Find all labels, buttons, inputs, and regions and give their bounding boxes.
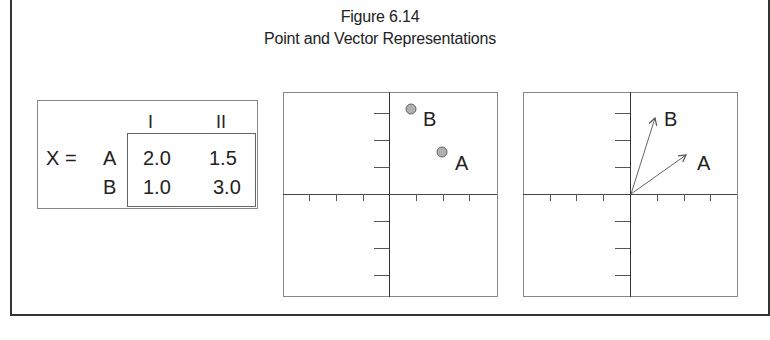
point-chart: B A — [283, 92, 498, 297]
vector-chart: B A — [523, 92, 738, 297]
point-B-label: B — [423, 108, 436, 130]
vector-A-label: A — [697, 152, 711, 174]
vector-B-label: B — [664, 108, 677, 130]
point-A-label: A — [455, 152, 469, 174]
point-B-marker — [406, 104, 416, 114]
vector-A-arrow — [631, 155, 686, 194]
point-A-marker — [437, 147, 447, 157]
vector-B-arrow — [631, 118, 655, 194]
